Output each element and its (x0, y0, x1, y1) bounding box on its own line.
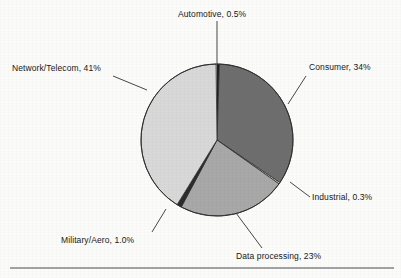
slice-label-data-processing: Data processing, 23% (236, 251, 321, 261)
pie-slice-group: Automotive, 0.5%Consumer, 34%Industrial,… (141, 64, 293, 216)
pie-chart-figure: Automotive, 0.5%Consumer, 34%Industrial,… (0, 0, 401, 278)
slice-label-network-telecom: Network/Telecom, 41% (12, 63, 101, 73)
leader-line-industrial (290, 182, 310, 197)
leader-line-consumer (288, 76, 306, 104)
leader-line-data-processing (236, 213, 262, 248)
bottom-divider-rule (10, 267, 394, 269)
leader-line-military-aero (152, 209, 166, 232)
leader-line-network-telecom (113, 76, 147, 90)
slice-label-consumer: Consumer, 34% (309, 62, 371, 72)
slice-label-automotive: Automotive, 0.5% (178, 9, 246, 19)
slice-label-military-aero: Military/Aero, 1.0% (61, 235, 134, 245)
slice-label-industrial: Industrial, 0.3% (312, 192, 372, 202)
